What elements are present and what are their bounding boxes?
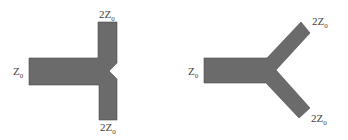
y-top-port-label: 2Z0 <box>312 15 328 30</box>
y-junction-trace <box>204 22 310 118</box>
t-junction-trace <box>29 22 117 120</box>
t-bottom-port-label: 2Z0 <box>100 121 116 136</box>
t-top-port-label: 2Z0 <box>99 8 115 23</box>
power-divider-diagrams: Z0 2Z0 2Z0 Z0 2Z0 2Z0 <box>0 0 348 140</box>
t-input-label: Z0 <box>13 65 24 80</box>
t-junction-diagram: Z0 2Z0 2Z0 <box>13 8 117 136</box>
y-junction-diagram: Z0 2Z0 2Z0 <box>188 15 328 127</box>
y-input-label: Z0 <box>188 65 199 80</box>
y-bottom-port-label: 2Z0 <box>311 112 327 127</box>
